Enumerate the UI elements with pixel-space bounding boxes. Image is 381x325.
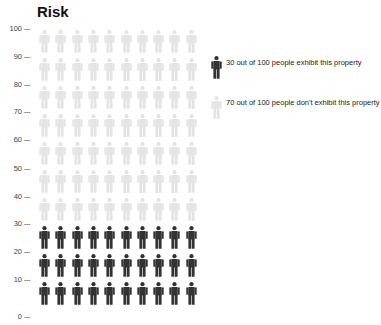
person-icon-light xyxy=(211,96,222,119)
y-tick-label: 80 xyxy=(0,80,22,89)
person-icon-light xyxy=(55,86,66,109)
person-icon-light xyxy=(39,170,50,193)
person-icon-light xyxy=(169,142,180,165)
y-tick-mark: --- xyxy=(24,107,30,116)
person-icon-light xyxy=(169,86,180,109)
y-tick-label: 50 xyxy=(0,164,22,173)
person-icon-light xyxy=(39,142,50,165)
person-icon-light xyxy=(55,114,66,137)
person-icon-light xyxy=(121,198,132,221)
person-icon-light xyxy=(121,30,132,53)
person-icon-light xyxy=(104,114,115,137)
person-icon-light xyxy=(88,142,99,165)
person-icon-dark xyxy=(153,226,164,249)
person-icon-dark xyxy=(186,254,197,277)
person-icon-light xyxy=(169,170,180,193)
person-icon-dark xyxy=(169,282,180,305)
person-icon-dark xyxy=(211,56,222,79)
legend-item-exhibit: 30 out of 100 people exhibit this proper… xyxy=(211,56,362,79)
person-icon-light xyxy=(121,142,132,165)
y-tick-mark: --- xyxy=(24,275,30,284)
person-icon-light xyxy=(169,114,180,137)
person-icon-light xyxy=(104,142,115,165)
person-icon-dark xyxy=(137,254,148,277)
person-icon-light xyxy=(137,142,148,165)
person-icon-dark xyxy=(55,226,66,249)
person-icon-dark xyxy=(72,226,83,249)
y-tick-mark: --- xyxy=(24,247,30,256)
y-tick-mark: --- xyxy=(24,164,30,173)
y-tick-mark: --- xyxy=(24,24,30,33)
person-icon-light xyxy=(169,30,180,53)
y-tick-mark: --- xyxy=(24,80,30,89)
person-icon-light xyxy=(153,142,164,165)
person-icon-dark xyxy=(169,254,180,277)
person-icon-light xyxy=(104,198,115,221)
person-icon-light xyxy=(186,198,197,221)
person-icon-dark xyxy=(121,282,132,305)
person-icon-light xyxy=(88,30,99,53)
y-tick-mark: --- xyxy=(24,52,30,61)
person-icon-light xyxy=(121,86,132,109)
person-icon-light xyxy=(169,58,180,81)
y-tick-90: 90--- xyxy=(0,52,36,61)
person-icon-light xyxy=(186,30,197,53)
person-icon-light xyxy=(72,198,83,221)
person-icon-light xyxy=(55,170,66,193)
person-icon-dark xyxy=(104,282,115,305)
person-icon-dark xyxy=(88,282,99,305)
person-icon-light xyxy=(186,170,197,193)
person-icon-dark xyxy=(104,226,115,249)
chart-title: Risk xyxy=(37,3,69,20)
y-tick-20: 20--- xyxy=(0,247,36,256)
person-icon-light xyxy=(88,86,99,109)
person-icon-light xyxy=(55,198,66,221)
person-icon-light xyxy=(186,142,197,165)
person-icon-dark xyxy=(55,282,66,305)
y-tick-mark: --- xyxy=(24,312,30,321)
y-tick-30: 30--- xyxy=(0,219,36,228)
person-icon-light xyxy=(186,86,197,109)
person-icon-light xyxy=(72,86,83,109)
y-tick-mark: --- xyxy=(24,192,30,201)
person-icon-light xyxy=(104,170,115,193)
y-tick-70: 70--- xyxy=(0,107,36,116)
person-icon-light xyxy=(153,170,164,193)
person-icon-light xyxy=(72,114,83,137)
person-icon-light xyxy=(39,198,50,221)
person-icon-dark xyxy=(88,226,99,249)
y-tick-label: 60 xyxy=(0,135,22,144)
person-icon-light xyxy=(72,58,83,81)
person-icon-light xyxy=(137,30,148,53)
y-tick-label: 100 xyxy=(0,24,22,33)
person-icon-light xyxy=(39,114,50,137)
person-icon-light xyxy=(55,142,66,165)
person-icon-dark xyxy=(153,254,164,277)
person-icon-dark xyxy=(121,226,132,249)
person-icon-light xyxy=(88,170,99,193)
person-icon-dark xyxy=(104,254,115,277)
y-tick-mark: --- xyxy=(24,219,30,228)
person-icon-light xyxy=(137,198,148,221)
person-icon-light xyxy=(104,58,115,81)
y-tick-label: 10 xyxy=(0,275,22,284)
y-tick-40: 40--- xyxy=(0,192,36,201)
person-icon-light xyxy=(153,114,164,137)
y-tick-label: 30 xyxy=(0,219,22,228)
person-icon-light xyxy=(55,58,66,81)
person-icon-light xyxy=(104,30,115,53)
person-icon-dark xyxy=(186,282,197,305)
y-tick-60: 60--- xyxy=(0,135,36,144)
person-icon-light xyxy=(72,170,83,193)
person-icon-dark xyxy=(137,226,148,249)
person-icon-light xyxy=(137,114,148,137)
person-icon-light xyxy=(153,30,164,53)
person-icon-light xyxy=(137,58,148,81)
person-icon-light xyxy=(72,30,83,53)
y-tick-10: 10--- xyxy=(0,275,36,284)
person-icon-light xyxy=(121,58,132,81)
y-tick-label: 40 xyxy=(0,192,22,201)
y-tick-label: 90 xyxy=(0,52,22,61)
person-icon-dark xyxy=(121,254,132,277)
y-tick-80: 80--- xyxy=(0,80,36,89)
